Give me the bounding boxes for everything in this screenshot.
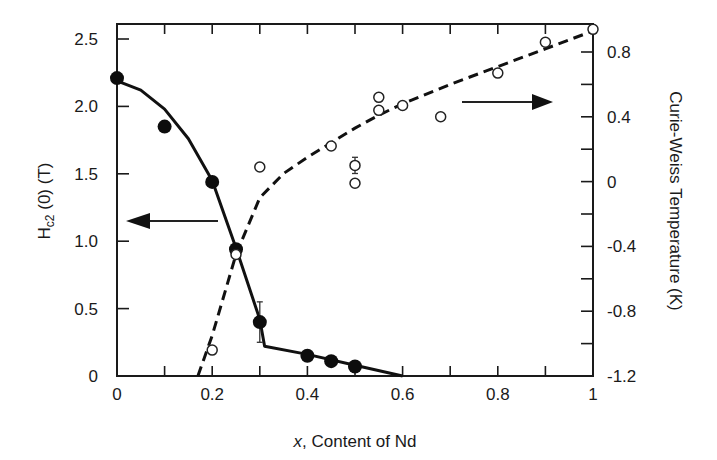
y-right-tick-label: 0 (607, 173, 616, 192)
curie-weiss-data-point (374, 105, 384, 115)
hc2-data-point (324, 354, 338, 368)
x-tick-label: 0.4 (296, 385, 320, 404)
tick-labels: 00.20.40.60.8100.51.01.52.02.5-1.2-0.8-0… (74, 30, 636, 404)
y-right-tick-label: -0.8 (607, 302, 636, 321)
curie-weiss-data-point (436, 112, 446, 122)
y-right-tick-label: 0.4 (607, 108, 631, 127)
curie-weiss-data-point (493, 68, 503, 78)
y-right-tick-label: -1.2 (607, 367, 636, 386)
y-right-tick-label: -0.4 (607, 237, 636, 256)
y-left-tick-label: 0 (89, 367, 98, 386)
chart: 00.20.40.60.8100.51.01.52.02.5-1.2-0.8-0… (0, 0, 717, 460)
curie-weiss-data-point (231, 250, 241, 260)
y-right-axis-title: Curie-Weiss Temperature (K) (666, 91, 685, 311)
hc2-data-point (158, 120, 172, 134)
curie-weiss-data-point (398, 100, 408, 110)
x-tick-label: 1 (588, 385, 597, 404)
plot-border (117, 24, 593, 376)
y-left-tick-label: 1.5 (74, 165, 98, 184)
hc2-data-point (205, 175, 219, 189)
x-tick-label: 0.2 (200, 385, 224, 404)
y-left-tick-label: 1.0 (74, 232, 98, 251)
fit-lines (117, 31, 593, 376)
x-tick-label: 0.6 (391, 385, 415, 404)
hc2-data-point (110, 71, 124, 85)
curie-weiss-data-point (374, 92, 384, 102)
right-arrow-icon (532, 94, 553, 110)
axis-arrows (126, 94, 553, 229)
plot-frame (117, 24, 593, 376)
data-markers (110, 24, 598, 373)
hc2-data-point (300, 349, 314, 363)
curie-weiss-data-point (207, 345, 217, 355)
curie-weiss-data-point (588, 24, 598, 34)
y-left-tick-label: 2.0 (74, 97, 98, 116)
y-left-tick-label: 0.5 (74, 300, 98, 319)
y-right-tick-label: 0.8 (607, 43, 631, 62)
x-tick-label: 0.8 (486, 385, 510, 404)
curie-weiss-data-point (255, 162, 265, 172)
curie-weiss-data-point (350, 178, 360, 188)
hc2-data-point (253, 315, 267, 329)
left-arrow-icon (126, 213, 150, 229)
y-left-axis-title: Hc2 (0) (T) (35, 163, 57, 240)
hc2-data-point (348, 360, 362, 374)
y-left-tick-label: 2.5 (74, 30, 98, 49)
axis-ticks (117, 24, 593, 376)
x-axis-title: x, Content of Nd (293, 432, 417, 451)
curie-weiss-data-point (350, 160, 360, 170)
x-tick-label: 0 (112, 385, 121, 404)
curie-weiss-data-point (326, 141, 336, 151)
curie-weiss-data-point (540, 37, 550, 47)
